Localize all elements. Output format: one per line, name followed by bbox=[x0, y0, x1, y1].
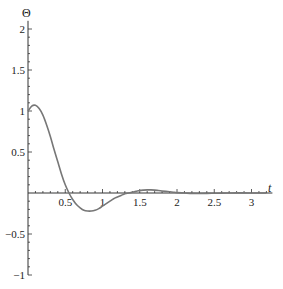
x-tick-label: 3 bbox=[249, 196, 255, 208]
axes bbox=[28, 21, 272, 275]
y-tick-label: 1 bbox=[20, 105, 26, 117]
x-tick-label: 0.5 bbox=[58, 196, 72, 208]
y-tick-label: −1 bbox=[13, 269, 25, 281]
x-tick-label: 2.5 bbox=[207, 196, 221, 208]
y-tick-label: 1.5 bbox=[11, 64, 25, 76]
y-tick-label: −0.5 bbox=[5, 228, 25, 240]
x-tick-label: 1.5 bbox=[133, 196, 147, 208]
chart-plot-area: 0.511.522.53−1−0.50.511.52 Θ t bbox=[0, 0, 283, 289]
y-tick-label: 2 bbox=[20, 23, 26, 35]
tick-labels: 0.511.522.53−1−0.50.511.52 bbox=[5, 23, 255, 281]
x-tick-label: 2 bbox=[174, 196, 180, 208]
y-axis-label: Θ bbox=[22, 6, 31, 20]
tick-marks bbox=[28, 29, 266, 275]
y-tick-label: 0.5 bbox=[11, 146, 25, 158]
